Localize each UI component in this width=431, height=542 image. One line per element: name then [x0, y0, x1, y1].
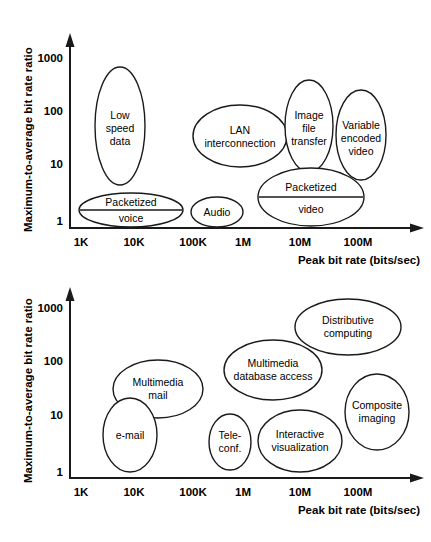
bubble-label-line: mail	[148, 389, 167, 401]
y-tick-label: 1	[57, 215, 64, 227]
bubble-variable-encoded-video: Variable encoded video	[336, 90, 386, 180]
y-tick-label: 1	[57, 466, 64, 478]
y-tick-label: 10	[50, 409, 63, 421]
x-tick-label: 1K	[74, 486, 89, 498]
x-tick-label: 10M	[289, 236, 311, 248]
bubble-label-line: computing	[324, 327, 373, 339]
y-axis-title: Maximum-to-average bit rate ratio	[22, 298, 34, 483]
bubble-label-line: imaging	[359, 412, 396, 424]
x-tick-label: 1M	[235, 486, 251, 498]
y-tick-label: 100	[44, 105, 63, 117]
bubble-label-line: Multimedia	[248, 357, 299, 369]
bubble-label-line: visualization	[271, 441, 328, 453]
bubble-label-line: Interactive	[276, 428, 325, 440]
bubble-lan-interconnection: LAN interconnection	[193, 105, 287, 167]
bubble-interactive-visualization: Interactive visualization	[258, 410, 342, 472]
bubble-label-line: Packetized	[105, 196, 157, 208]
x-tick-label: 100M	[344, 236, 373, 248]
x-tick-label: 100K	[179, 236, 207, 248]
chart-top: 1000 100 10 1 Maximum-to-average bit rat…	[0, 0, 431, 271]
chart-bottom: 1000 100 10 1 Maximum-to-average bit rat…	[0, 271, 431, 542]
x-tick-label: 100K	[179, 486, 207, 498]
x-tick-label: 10K	[123, 486, 145, 498]
bubble-tele-conf: Tele- conf.	[209, 414, 251, 470]
bubble-image-file-transfer: Image file transfer	[285, 80, 333, 172]
y-tick-label: 1000	[37, 52, 63, 64]
bubble-label-line: Composite	[352, 399, 402, 411]
bubble-audio: Audio	[191, 197, 243, 227]
bubble-packetized-voice: Packetized voice	[79, 193, 183, 227]
bubble-label-line: Multimedia	[133, 376, 184, 388]
bubble-label-line: data	[110, 135, 131, 147]
bubble-low-speed-data: Low speed data	[95, 67, 145, 185]
y-axis-title: Maximum-to-average bit rate ratio	[22, 47, 34, 232]
x-tick-label: 10K	[123, 236, 145, 248]
bubble-label-line: Audio	[204, 206, 231, 218]
x-tick-label: 100M	[344, 486, 373, 498]
bubble-packetized-video: Packetized video	[258, 168, 364, 226]
bubble-label-line: file	[302, 122, 316, 134]
x-tick-label: 10M	[289, 486, 311, 498]
bubble-label-line: LAN	[230, 124, 250, 136]
bubble-composite-imaging: Composite imaging	[345, 374, 409, 450]
bubble-multimedia-database-access: Multimedia database access	[224, 340, 322, 400]
x-axis-title: Peak bit rate (bits/sec)	[298, 254, 420, 266]
bubble-label-line: Packetized	[285, 181, 337, 193]
bubble-label-line: Tele-	[219, 429, 242, 441]
x-tick-label: 1K	[74, 236, 89, 248]
bubble-label-line: Distributive	[322, 314, 374, 326]
bubble-label-line: voice	[119, 212, 144, 224]
bubble-label-line: Image	[294, 109, 323, 121]
bubble-label-line: video	[298, 203, 323, 215]
bubble-label-line: speed	[106, 122, 135, 134]
bubble-label-line: database access	[234, 370, 313, 382]
y-axis-bottom	[66, 287, 75, 479]
bubble-distributive-computing: Distributive computing	[295, 299, 401, 355]
bubble-label-line: e-mail	[116, 429, 145, 441]
y-tick-label: 1000	[37, 302, 63, 314]
x-tick-label: 1M	[235, 236, 251, 248]
bubble-label-line: video	[348, 145, 373, 157]
bubble-label-line: interconnection	[204, 137, 275, 149]
y-tick-label: 10	[50, 158, 63, 170]
y-axis-top	[66, 33, 75, 229]
x-axis-title: Peak bit rate (bits/sec)	[298, 504, 420, 516]
y-tick-label: 100	[44, 355, 63, 367]
bubble-label-line: conf.	[219, 442, 242, 454]
bubble-label-line: Low	[110, 109, 130, 121]
bubble-e-mail: e-mail	[103, 398, 157, 472]
bubble-label-line: Variable	[342, 119, 380, 131]
x-axis-bottom	[70, 474, 424, 483]
bubble-label-line: transfer	[291, 135, 327, 147]
bubble-label-line: encoded	[341, 132, 381, 144]
